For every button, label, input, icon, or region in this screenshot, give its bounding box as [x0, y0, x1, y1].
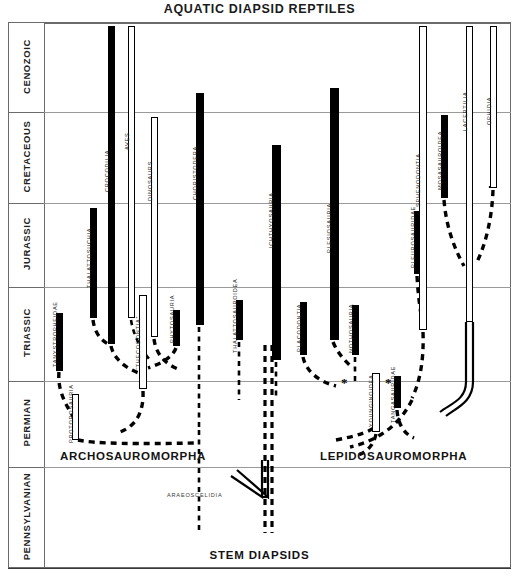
range-bar-choristodera — [196, 93, 204, 325]
taxon-label-ophidia: OPHIDIA — [486, 97, 492, 125]
taxon-label-lacertilia: LACERTILIA — [462, 92, 468, 131]
range-bar-lacertilia — [466, 26, 473, 322]
taxon-label-ichthyosauria: ICHTHYOSAURIA — [268, 192, 274, 248]
taxon-label-plesiosauria: PLESIOSAURIA — [326, 203, 332, 253]
taxon-label-thalattosuchia: THALATTOSUCHIA — [86, 228, 92, 288]
plot-top-rule — [44, 23, 511, 24]
clade-label-lepidosauromorpha: LEPIDOSAUROMORPHA — [320, 450, 467, 462]
asterisk-1: * — [341, 376, 348, 389]
taxon-label-thecodontia: “THECODONTIA” — [135, 316, 141, 370]
range-bar-ichthyosauria — [272, 145, 281, 360]
diagram-canvas: AQUATIC DIAPSID REPTILES CENOZOICCRETACE… — [0, 0, 519, 587]
clade-label-stem-diapsids: STEM DIAPSIDS — [0, 549, 519, 561]
taxon-label-choristodera: CHORISTODERA — [192, 146, 198, 200]
range-bar-aves — [128, 26, 135, 318]
taxon-label-placodontia: PLACODONTIA — [296, 304, 302, 352]
taxon-label-dinosaurs: DINOSAURS — [147, 161, 153, 201]
taxon-label-thalattosauroidea: THALATTOSAUROIDEA — [232, 279, 238, 353]
taxon-label-mosasauroidea: MOSASAUROIDEA — [437, 131, 443, 190]
chart-frame — [8, 22, 511, 568]
page-title: AQUATIC DIAPSID REPTILES — [0, 2, 519, 16]
gridline-pennsylvanian — [44, 467, 511, 468]
clade-label-araeoscelidia: ARAEOSCELIDIA — [167, 492, 222, 498]
taxon-label-sphenodontia: SPHENODONTIA — [415, 153, 421, 207]
gridline-permian — [44, 381, 511, 382]
taxon-label-younginoidea: YOUNGINOIDEA — [368, 374, 374, 427]
range-bar-dinosaurs — [151, 117, 158, 337]
asterisk-2: * — [385, 376, 392, 389]
taxon-label-crocodilia: CROCODILIA — [104, 150, 110, 192]
taxon-label-phytosauria: PHYTOSAURIA — [169, 295, 175, 343]
footer-rule — [8, 568, 511, 569]
taxon-label-protorosauria: PROTOROSAURIA — [68, 384, 74, 443]
clade-label-archosauromorpha: ARCHOSAUROMORPHA — [60, 450, 206, 462]
taxon-label-aves: AVES — [124, 132, 130, 150]
taxon-label-tanystropheidae: TANYSTROPHEIDAE — [52, 301, 58, 367]
taxon-label-nothosauria: NOTHOSAURIA — [348, 304, 354, 353]
taxon-label-pleurosauridae: PLEUROSAURIDAE — [410, 206, 416, 268]
era-column-divider — [44, 22, 45, 568]
